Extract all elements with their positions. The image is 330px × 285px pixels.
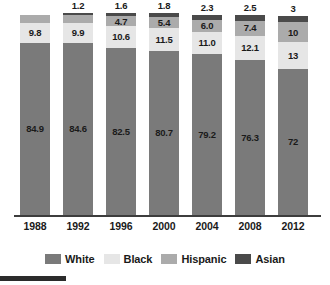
bar-segment-hispanic[interactable]: 5.4	[149, 17, 179, 28]
segment-value-label: 5.4	[158, 18, 171, 28]
segment-value-label-asian-outside: 2.5	[235, 3, 265, 13]
page-crop-artifact	[0, 276, 66, 281]
segment-value-label-asian-outside: 2.3	[192, 3, 222, 13]
bar-column[interactable]: 9.984.6	[63, 13, 93, 215]
legend-label: Black	[124, 253, 153, 265]
bar-segment-white[interactable]: 76.3	[235, 60, 265, 215]
bar-column[interactable]: 4.710.682.5	[106, 13, 136, 215]
bar-column[interactable]: 6.011.079.2	[192, 15, 222, 215]
segment-value-label: 12.1	[241, 43, 259, 53]
segment-value-label: 11.5	[155, 35, 172, 45]
x-axis-tick-2000: 2000	[144, 220, 184, 232]
segment-value-label-asian-outside: 1.6	[106, 1, 136, 11]
segment-value-label-asian-outside: 1.2	[63, 1, 93, 11]
bar-segment-hispanic[interactable]: 10	[278, 22, 308, 42]
chart-legend: WhiteBlackHispanicAsian	[0, 253, 330, 265]
bar-segment-white[interactable]: 84.9	[20, 43, 50, 215]
legend-item-hispanic[interactable]: Hispanic	[161, 253, 226, 265]
bar-segment-black[interactable]: 11.5	[149, 28, 179, 51]
legend-item-asian[interactable]: Asian	[235, 253, 284, 265]
x-axis-tick-1992: 1992	[58, 220, 98, 232]
x-axis-tick-2004: 2004	[187, 220, 227, 232]
legend-swatch-icon	[45, 254, 61, 264]
segment-value-label: 9.8	[29, 28, 42, 38]
bar-segment-white[interactable]: 82.5	[106, 48, 136, 215]
segment-value-label: 10.6	[112, 32, 130, 42]
bar-column[interactable]: 101372	[278, 16, 308, 215]
bar-segment-black[interactable]: 11.0	[192, 32, 222, 54]
bar-segment-white[interactable]: 72	[278, 69, 308, 215]
bar-segment-hispanic[interactable]	[20, 15, 50, 22]
segment-value-label: 82.5	[112, 127, 130, 137]
segment-value-label: 6.0	[201, 21, 214, 31]
bar-segment-white[interactable]: 79.2	[192, 54, 222, 215]
segment-value-label: 4.7	[115, 17, 128, 27]
bar-segment-black[interactable]: 13	[278, 42, 308, 68]
bar-column[interactable]: 5.411.580.7	[149, 13, 179, 215]
x-axis-tick-2012: 2012	[273, 220, 313, 232]
bar-segment-hispanic[interactable]: 7.4	[235, 21, 265, 36]
legend-label: White	[65, 253, 94, 265]
segment-value-label: 84.6	[69, 124, 87, 134]
x-axis-tick-2008: 2008	[230, 220, 270, 232]
segment-value-label: 76.3	[241, 133, 259, 143]
bar-segment-black[interactable]: 12.1	[235, 36, 265, 61]
legend-swatch-icon	[161, 254, 177, 264]
bar-segment-hispanic[interactable]	[63, 15, 93, 23]
x-axis-line	[14, 215, 321, 217]
x-axis-tick-1988: 1988	[15, 220, 55, 232]
legend-label: Asian	[255, 253, 284, 265]
segment-value-label: 11.0	[198, 38, 215, 48]
bar-segment-black[interactable]: 9.9	[63, 23, 93, 43]
plot-area: 9.884.91.29.984.61.64.710.682.51.85.411.…	[18, 12, 318, 215]
segment-value-label: 13	[288, 51, 298, 61]
bar-segment-hispanic[interactable]: 6.0	[192, 20, 222, 32]
segment-value-label: 80.7	[155, 128, 173, 138]
legend-swatch-icon	[235, 254, 251, 264]
bar-column[interactable]: 7.412.176.3	[235, 15, 265, 215]
x-axis-tick-1996: 1996	[101, 220, 141, 232]
legend-item-black[interactable]: Black	[104, 253, 153, 265]
segment-value-label: 84.9	[26, 124, 44, 134]
segment-value-label: 72	[288, 137, 298, 147]
stacked-bar-chart: 9.884.91.29.984.61.64.710.682.51.85.411.…	[0, 0, 330, 285]
bar-column[interactable]: 9.884.9	[20, 15, 50, 215]
legend-label: Hispanic	[181, 253, 226, 265]
legend-swatch-icon	[104, 254, 120, 264]
segment-value-label: 7.4	[244, 23, 257, 33]
segment-value-label-asian-outside: 1.8	[149, 1, 179, 11]
bar-segment-white[interactable]: 80.7	[149, 51, 179, 215]
segment-value-label: 79.2	[198, 130, 216, 140]
segment-value-label: 10	[288, 28, 298, 38]
bar-segment-black[interactable]: 10.6	[106, 26, 136, 48]
bar-segment-black[interactable]: 9.8	[20, 23, 50, 43]
segment-value-label: 9.9	[72, 28, 85, 38]
bar-segment-white[interactable]: 84.6	[63, 43, 93, 215]
bar-segment-hispanic[interactable]: 4.7	[106, 16, 136, 26]
x-axis-tick-labels: 1988199219962000200420082012	[18, 220, 318, 238]
legend-item-white[interactable]: White	[45, 253, 94, 265]
segment-value-label-asian-outside: 3	[278, 4, 308, 14]
